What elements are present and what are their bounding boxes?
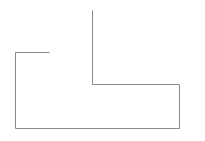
- diagram-canvas: [0, 0, 205, 141]
- outline-drawing: [0, 0, 205, 141]
- outline-polyline: [16, 11, 180, 129]
